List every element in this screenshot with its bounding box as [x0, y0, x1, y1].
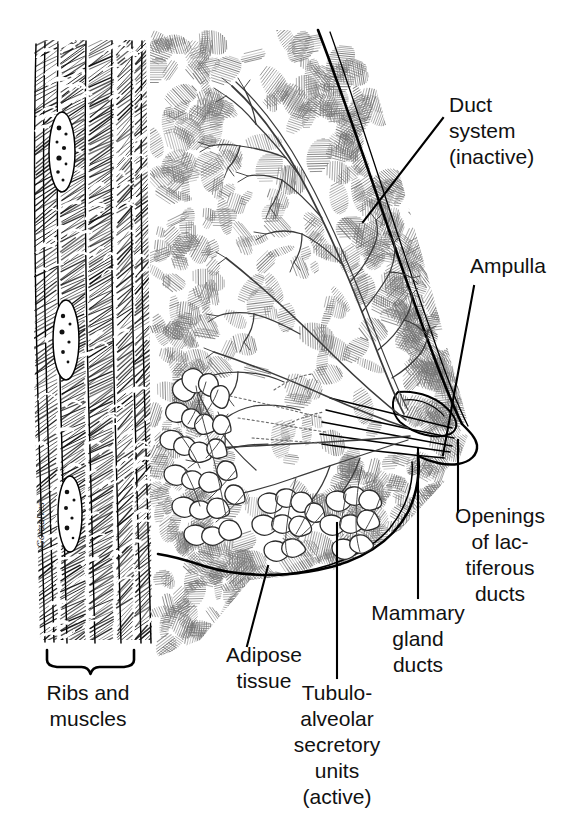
adipose-lobule: [305, 581, 325, 599]
adipose-lobule: [362, 456, 386, 484]
adipose-lobule: [402, 85, 420, 101]
adipose-lobule: [290, 573, 304, 607]
adipose-lobule: [323, 624, 347, 652]
adipose-lobule: [336, 576, 367, 605]
adipose-lobule: [426, 202, 449, 226]
adipose-lobule: [345, 617, 372, 655]
adipose-lobule: [397, 50, 414, 71]
adipose-lobule: [290, 571, 324, 610]
adipose-lobule: [427, 83, 441, 117]
label-line: ducts: [393, 653, 443, 676]
adipose-lobule: [221, 307, 249, 332]
adipose-lobule: [440, 232, 466, 256]
label-openings-of-lactiferous-ducts: Openingsof lac-tiferousducts: [455, 504, 545, 605]
adipose-lobule: [326, 180, 352, 215]
receding-duct-branches: [230, 374, 330, 444]
adipose-lobule: [431, 504, 454, 530]
adipose-lobule: [310, 413, 324, 429]
adipose-lobule: [297, 601, 324, 637]
adipose-lobule: [429, 214, 456, 251]
adipose-lobule: [414, 533, 431, 549]
adipose-lobule: [252, 249, 281, 276]
label-line: Ampulla: [470, 254, 546, 277]
adipose-lobule: [418, 533, 453, 571]
label-adipose-tissue: Adiposetissue: [226, 643, 302, 692]
adipose-lobule: [273, 588, 287, 600]
adipose-lobule: [290, 254, 309, 280]
adipose-lobule: [401, 154, 427, 194]
adipose-lobule: [402, 110, 419, 125]
label-line: system: [449, 119, 516, 142]
adipose-lobule: [432, 220, 449, 257]
adipose-lobule: [196, 157, 229, 194]
label-line: alveolar: [300, 707, 374, 730]
label-ribs-and-muscles: Ribs andmuscles: [47, 681, 130, 730]
adipose-lobule: [205, 604, 224, 630]
adipose-lobule: [402, 519, 419, 536]
adipose-lobule: [409, 533, 421, 553]
adipose-lobule: [196, 28, 230, 56]
label-line: Adipose: [226, 643, 302, 666]
adipose-lobule: [406, 480, 448, 516]
adipose-lobule: [231, 333, 257, 356]
label-line: gland: [392, 627, 443, 650]
adipose-lobule: [430, 33, 451, 56]
label-line: units: [315, 759, 359, 782]
label-line: tissue: [237, 669, 292, 692]
adipose-lobule: [414, 184, 451, 210]
rib-oval: [58, 476, 82, 552]
label-duct-system: Ductsystem(inactive): [449, 93, 534, 168]
adipose-lobule: [415, 154, 438, 191]
adipose-lobule: [426, 543, 454, 583]
adipose-lobule: [377, 44, 411, 70]
label-mammary-gland-ducts: Mammaryglandducts: [371, 601, 465, 676]
adipose-lobule: [321, 618, 344, 643]
adipose-lobule: [320, 612, 349, 647]
adipose-lobule: [236, 232, 269, 249]
adipose-lobule: [203, 257, 223, 278]
label-line: of lac-: [471, 530, 528, 553]
adipose-lobule: [411, 537, 435, 557]
label-line: tiferous: [466, 556, 535, 579]
adipose-lobule: [422, 170, 448, 196]
adipose-lobule: [439, 250, 472, 284]
inactive-duct-tree: [186, 78, 436, 468]
anatomical-figure: Gonzalves: [0, 0, 587, 820]
adipose-lobule: [292, 605, 319, 618]
adipose-lobule: [422, 533, 438, 549]
adipose-lobule: [300, 246, 312, 260]
adipose-lobule: [309, 261, 321, 274]
adipose-lobule: [160, 269, 188, 297]
label-line: Ribs and: [47, 681, 130, 704]
adipose-lobule: [285, 587, 303, 608]
chest-wall-muscle-band: Gonzalves: [34, 33, 169, 660]
adipose-lobule: [398, 538, 411, 555]
adipose-lobule: [378, 35, 394, 71]
label-ampulla: Ampulla: [470, 254, 546, 277]
label-line: ducts: [475, 582, 525, 605]
figure-canvas: Gonzalves: [0, 0, 587, 820]
adipose-lobule: [223, 190, 250, 216]
adipose-lobule: [266, 243, 295, 260]
adipose-lobule: [306, 623, 334, 642]
adipose-lobule: [294, 574, 327, 607]
leader-duct-system: [363, 118, 443, 222]
adipose-lobule: [240, 618, 270, 645]
adipose-lobule: [406, 192, 444, 228]
artist-signature: Gonzalves: [34, 502, 46, 548]
label-line: (inactive): [449, 145, 534, 168]
adipose-lobule: [354, 637, 366, 652]
adipose-lobule: [334, 595, 370, 624]
adipose-lobule: [318, 602, 331, 619]
adipose-lobule: [246, 132, 283, 152]
adipose-lobule: [316, 349, 329, 376]
ribs-and-muscles-brace: [47, 650, 134, 674]
adipose-lobule: [426, 509, 449, 532]
adipose-lobule: [317, 631, 334, 651]
label-line: Mammary: [371, 601, 465, 624]
rib-oval: [53, 300, 79, 380]
adipose-lobule: [325, 629, 353, 638]
label-tubulo-alveolar-secretory-units: Tubulo-alveolarsecretoryunits(active): [294, 681, 381, 808]
adipose-lobule: [428, 164, 449, 193]
adipose-lobule: [143, 55, 169, 86]
